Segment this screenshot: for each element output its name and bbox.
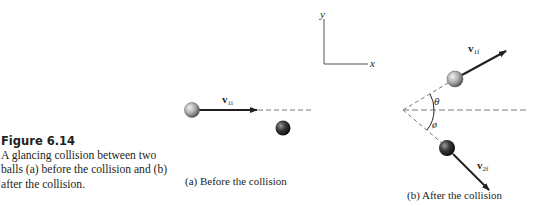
ball-1-icon (185, 103, 200, 118)
panel-a-caption: (a) Before the collision (185, 175, 287, 187)
theta-label: θ (434, 95, 440, 107)
ball-2-icon (276, 121, 291, 136)
v1i-label: v1i (222, 93, 233, 107)
xy-axes: y x (319, 8, 375, 69)
v1f-label: v1f (468, 42, 480, 56)
v2f-label: v2f (477, 159, 489, 173)
ball-1-after-icon (447, 71, 463, 87)
dashed-ball1-path (403, 83, 448, 110)
velocity-v1f-arrow (462, 51, 506, 75)
panel-a-before-collision: v1i (185, 93, 315, 136)
x-axis-label: x (369, 57, 375, 69)
panel-b-after-collision: v1f v2f θ ø (403, 42, 527, 190)
ball-2-after-icon (439, 140, 455, 156)
phi-label: ø (431, 119, 438, 130)
y-axis-label: y (319, 8, 325, 20)
panel-b-caption: (b) After the collision (407, 189, 502, 201)
